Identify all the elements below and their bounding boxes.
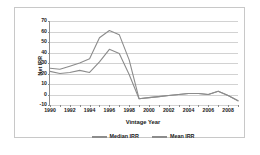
x-tick-label: 1996 bbox=[104, 108, 116, 113]
legend-label: Median IRR bbox=[110, 134, 139, 139]
x-tick-label: 2004 bbox=[183, 108, 195, 113]
series-lines bbox=[50, 21, 238, 105]
y-tick-label: 60 bbox=[41, 29, 47, 34]
y-tick-label: 10 bbox=[41, 81, 47, 86]
y-tick-label: 30 bbox=[41, 60, 47, 65]
x-tick-mark bbox=[139, 105, 140, 107]
x-tick-label: 2008 bbox=[222, 108, 234, 113]
x-tick-label: 1998 bbox=[123, 108, 135, 113]
series-line bbox=[50, 30, 238, 100]
y-tick-label: 40 bbox=[41, 50, 47, 55]
x-tick-mark bbox=[179, 105, 180, 107]
x-tick-mark bbox=[198, 105, 199, 107]
x-tick-label: 2006 bbox=[203, 108, 215, 113]
series-line bbox=[50, 49, 238, 100]
x-axis-title: Vintage Year bbox=[49, 120, 237, 126]
chart-container: Net IRR 706050403020100-10 1990199219941… bbox=[14, 7, 245, 138]
x-tick-mark bbox=[60, 105, 61, 107]
chart-legend: Median IRRMean IRR bbox=[49, 134, 237, 139]
legend-swatch bbox=[152, 136, 167, 138]
legend-label: Mean IRR bbox=[170, 134, 195, 139]
x-tick-label: 1992 bbox=[64, 108, 76, 113]
x-tick-mark bbox=[159, 105, 160, 107]
x-tick-label: 2000 bbox=[143, 108, 155, 113]
y-tick-label: 0 bbox=[44, 92, 47, 97]
legend-item[interactable]: Mean IRR bbox=[152, 134, 195, 139]
legend-swatch bbox=[92, 136, 107, 138]
x-tick-mark bbox=[218, 105, 219, 107]
y-tick-label: 70 bbox=[41, 18, 47, 23]
x-tick-mark bbox=[238, 105, 239, 107]
y-tick-label: 20 bbox=[41, 71, 47, 76]
y-tick-label: 50 bbox=[41, 39, 47, 44]
gridline bbox=[50, 105, 238, 106]
x-tick-label: 1994 bbox=[84, 108, 96, 113]
legend-item[interactable]: Median IRR bbox=[92, 134, 139, 139]
x-tick-mark bbox=[119, 105, 120, 107]
plot-area: 706050403020100-10 199019921994199619982… bbox=[49, 21, 238, 106]
x-tick-label: 1990 bbox=[44, 108, 56, 113]
x-tick-mark bbox=[80, 105, 81, 107]
x-tick-mark bbox=[99, 105, 100, 107]
x-tick-label: 2002 bbox=[163, 108, 175, 113]
